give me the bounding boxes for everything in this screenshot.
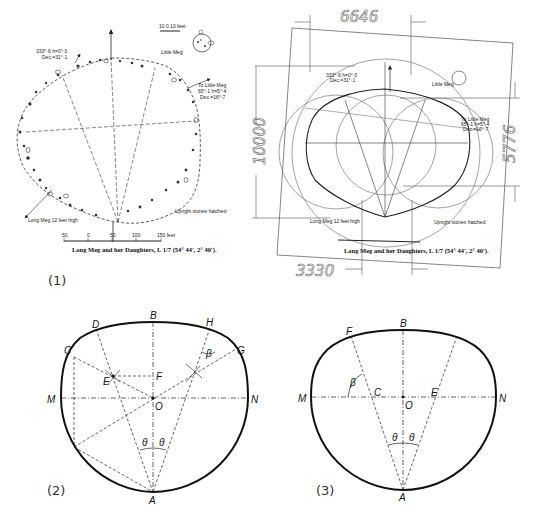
point-D-2: D	[92, 319, 99, 330]
point-O-3: O	[405, 400, 413, 411]
little-meg-label: Little Meg	[161, 49, 183, 55]
angle-theta-left-2: θ	[142, 437, 148, 448]
point-O-2: O	[155, 401, 163, 412]
svg-text:0: 0	[87, 232, 90, 238]
figure-1b-construction-overlay: 6646 10000 5776 3330 333°·6 h=0°·3 Dec.=…	[251, 8, 520, 280]
point-B-2: B	[150, 310, 157, 321]
axes-3	[311, 330, 496, 490]
figure-1-stone-circle-plan: 333°·6 h=0°·3 Dec.=31°·1 To Little Meg 6…	[17, 23, 227, 288]
figure-1-caption: Long Meg and her Daughters, L 1/7 (54° 4…	[72, 246, 217, 254]
paper-frame	[277, 28, 513, 268]
oval-outline-3	[311, 330, 496, 490]
point-G-2: G	[237, 345, 245, 356]
alignment-lines-b	[305, 62, 480, 217]
long-meg-label: Long Meg 12 feet high	[28, 217, 78, 223]
angle-beta-3: β	[349, 377, 356, 388]
point-F-3: F	[346, 326, 353, 337]
diagram-canvas: 333°·6 h=0°·3 Dec.=31°·1 To Little Meg 6…	[0, 0, 537, 522]
construction-lines-3	[351, 336, 457, 490]
point-B-3: B	[400, 318, 407, 329]
little-meg-label-b: Little Meg	[432, 81, 454, 87]
arrow-long-meg	[25, 190, 52, 218]
dec-16-label-b: Dec.=16°·7	[463, 126, 488, 132]
svg-text:50: 50	[62, 232, 68, 238]
dimension-right-label: 5776	[501, 125, 519, 163]
point-E-2: E	[103, 376, 110, 387]
scale-bar: 50 0 50 100 150 feet	[62, 232, 176, 242]
point-A-2: A	[148, 495, 156, 506]
point-N-2: N	[251, 394, 259, 405]
figure-2-oval-construction: B D H C G E F M N O A β θ θ (2)	[47, 310, 259, 506]
arrow-333	[75, 54, 80, 63]
point-C-2: C	[64, 345, 72, 356]
point-E-3: E	[431, 387, 438, 398]
little-meg-circle-b	[452, 71, 466, 85]
dec-31-label: Dec.=31°·1	[42, 54, 67, 60]
dimension-left-label: 10000	[251, 117, 269, 165]
dec-16-label: Dec.=16°·7	[200, 94, 225, 100]
upright-stones-note-b: Upright stones hatched	[434, 219, 486, 225]
alignment-lines	[26, 58, 196, 222]
stones	[19, 59, 198, 217]
angle-beta-2: β	[205, 348, 212, 359]
little-meg-circle	[193, 34, 211, 52]
stone-outlines	[26, 59, 198, 198]
point-M-2: M	[47, 394, 56, 405]
long-meg-label-b: Long Meg 12 feet high	[310, 218, 360, 224]
little-meg-scale-label: 10 0 10 feet	[159, 23, 186, 29]
point-A-3: A	[398, 492, 406, 503]
point-N-3: N	[499, 393, 507, 404]
figure-1b-caption: Long Meg and her Daughters, L 1/7 (54° 4…	[344, 247, 489, 255]
figure-2-number: (2)	[47, 483, 65, 498]
point-M-3: M	[298, 393, 307, 404]
figure-3-oval-construction: B F C E M N O A β θ θ (3)	[298, 318, 507, 503]
stone-ring-outline-b	[306, 89, 470, 217]
dec-31-label-b: Dec.=31°·1	[330, 77, 355, 83]
upright-stones-note: Upright stones hatched	[175, 208, 227, 214]
angle-theta-right-3: θ	[409, 432, 415, 443]
figure-3-number: (3)	[316, 483, 334, 498]
svg-text:150 feet: 150 feet	[157, 232, 176, 238]
scale-bar-b	[338, 240, 420, 242]
dimension-bottom-label: 3330	[296, 262, 334, 280]
figure-1-number: (1)	[48, 273, 66, 288]
angle-theta-left-3: θ	[392, 432, 398, 443]
angle-theta-right-2: θ	[159, 437, 165, 448]
svg-text:100: 100	[132, 232, 141, 238]
point-F-2: F	[156, 371, 163, 382]
point-H-2: H	[206, 317, 214, 328]
dimension-top-label: 6646	[340, 8, 378, 26]
svg-text:50: 50	[110, 232, 116, 238]
point-C-3: C	[374, 387, 382, 398]
